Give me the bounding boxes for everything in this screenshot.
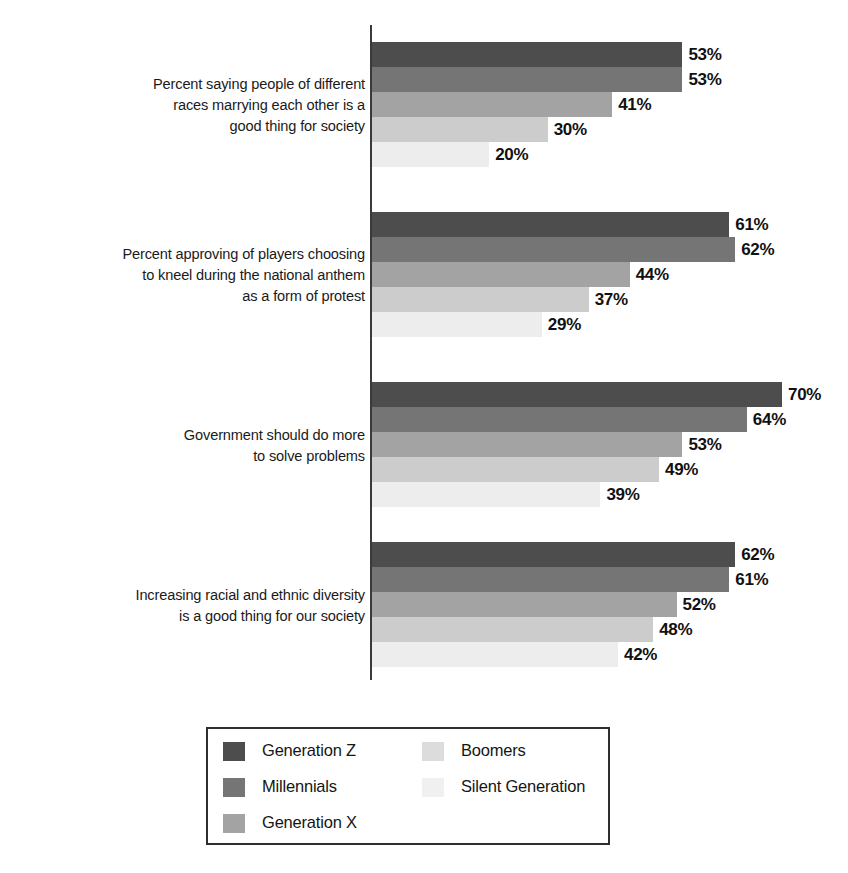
- bar-value-label: 39%: [606, 485, 639, 505]
- bar-value-label: 30%: [554, 120, 587, 140]
- legend-label: Boomers: [461, 741, 526, 761]
- legend-swatch-icon: [422, 778, 444, 797]
- bar-row: 64%: [372, 407, 848, 432]
- bar: [372, 117, 548, 142]
- bar: [372, 287, 589, 312]
- bar: [372, 482, 600, 507]
- bar-row: 53%: [372, 432, 848, 457]
- bar: [372, 42, 682, 67]
- bar-value-label: 64%: [753, 410, 786, 430]
- legend-item[interactable]: Boomers: [422, 740, 528, 762]
- bar-value-label: 53%: [688, 435, 721, 455]
- bar-group: Percent saying people of different races…: [0, 42, 848, 167]
- bar-row: 61%: [372, 567, 848, 592]
- legend-item[interactable]: Generation X: [223, 812, 360, 834]
- bar-row: 44%: [372, 262, 848, 287]
- bar-row: 30%: [372, 117, 848, 142]
- bar-group: Increasing racial and ethnic diversity i…: [0, 542, 848, 667]
- bar-value-label: 70%: [788, 385, 821, 405]
- bar-value-label: 37%: [595, 290, 628, 310]
- bar: [372, 432, 682, 457]
- legend-label: Generation Z: [262, 741, 356, 761]
- bar-value-label: 61%: [735, 570, 768, 590]
- bar: [372, 67, 682, 92]
- bar: [372, 542, 735, 567]
- bar: [372, 92, 612, 117]
- bar-row: 42%: [372, 642, 848, 667]
- legend-item[interactable]: Generation Z: [223, 740, 359, 762]
- bar: [372, 382, 782, 407]
- bar: [372, 567, 729, 592]
- bar-value-label: 53%: [688, 45, 721, 65]
- bar: [372, 237, 735, 262]
- bar-value-label: 41%: [618, 95, 651, 115]
- legend-label: Millennials: [262, 777, 337, 797]
- category-label: Government should do more to solve probl…: [55, 424, 365, 466]
- legend-item[interactable]: Millennials: [223, 776, 339, 798]
- bar: [372, 142, 489, 167]
- bar: [372, 457, 659, 482]
- bar-row: 20%: [372, 142, 848, 167]
- bar-value-label: 42%: [624, 645, 657, 665]
- bar-group: Percent approving of players choosing to…: [0, 212, 848, 337]
- bar-row: 62%: [372, 237, 848, 262]
- bar-value-label: 48%: [659, 620, 692, 640]
- bar-value-label: 61%: [735, 215, 768, 235]
- bar: [372, 642, 618, 667]
- bar-row: 70%: [372, 382, 848, 407]
- bar: [372, 312, 542, 337]
- bar-row: 48%: [372, 617, 848, 642]
- bar-row: 53%: [372, 42, 848, 67]
- bar-row: 61%: [372, 212, 848, 237]
- bar-row: 39%: [372, 482, 848, 507]
- legend-swatch-icon: [223, 778, 245, 797]
- bar-row: 37%: [372, 287, 848, 312]
- bar-value-label: 62%: [741, 240, 774, 260]
- bar-group: Government should do more to solve probl…: [0, 382, 848, 507]
- chart-legend: Generation ZMillennialsGeneration XBoome…: [206, 727, 610, 845]
- bar-value-label: 62%: [741, 545, 774, 565]
- category-label: Percent approving of players choosing to…: [55, 243, 365, 306]
- plot-area: Percent saying people of different races…: [0, 0, 848, 700]
- bar: [372, 407, 747, 432]
- bar-row: 53%: [372, 67, 848, 92]
- category-label: Percent saying people of different races…: [55, 73, 365, 136]
- bar: [372, 592, 677, 617]
- legend-item[interactable]: Silent Generation: [422, 776, 589, 798]
- bar: [372, 262, 630, 287]
- legend-swatch-icon: [223, 814, 245, 833]
- bar-value-label: 53%: [688, 70, 721, 90]
- bar-row: 52%: [372, 592, 848, 617]
- bar-value-label: 44%: [636, 265, 669, 285]
- bar-value-label: 20%: [495, 145, 528, 165]
- legend-label: Silent Generation: [461, 777, 585, 797]
- bar-value-label: 49%: [665, 460, 698, 480]
- bar-value-label: 29%: [548, 315, 581, 335]
- legend-swatch-icon: [223, 742, 245, 761]
- bar-row: 49%: [372, 457, 848, 482]
- bar-value-label: 52%: [683, 595, 716, 615]
- bar: [372, 617, 653, 642]
- category-label: Increasing racial and ethnic diversity i…: [55, 584, 365, 626]
- bar: [372, 212, 729, 237]
- bar-row: 41%: [372, 92, 848, 117]
- legend-swatch-icon: [422, 742, 444, 761]
- bar-row: 29%: [372, 312, 848, 337]
- bar-chart: Percent saying people of different races…: [0, 0, 848, 873]
- bar-row: 62%: [372, 542, 848, 567]
- legend-label: Generation X: [262, 813, 357, 833]
